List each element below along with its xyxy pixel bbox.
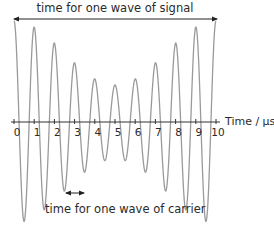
axis-tick-label: 8 [175, 126, 182, 138]
axis-tick-labels: 012345678910 [14, 126, 225, 138]
signal-period-label: time for one wave of signal [37, 1, 194, 15]
axis-tick-label: 1 [34, 126, 41, 138]
axis-tick-label: 6 [135, 126, 142, 138]
axis-tick-label: 9 [195, 126, 202, 138]
axis-tick-label: 2 [54, 126, 61, 138]
time-axis-label: Time / µs [224, 115, 274, 128]
axis-tick-label: 10 [211, 126, 224, 138]
axis-tick-label: 4 [94, 126, 101, 138]
axis-tick-label: 0 [14, 126, 21, 138]
axis-tick-label: 3 [74, 126, 81, 138]
carrier-period-label: time for one wave of carrier [45, 202, 206, 216]
axis-tick-label: 7 [155, 126, 162, 138]
axis-tick-label: 5 [115, 126, 122, 138]
am-wave-diagram: time for one wave of signal 012345678910… [0, 0, 274, 225]
